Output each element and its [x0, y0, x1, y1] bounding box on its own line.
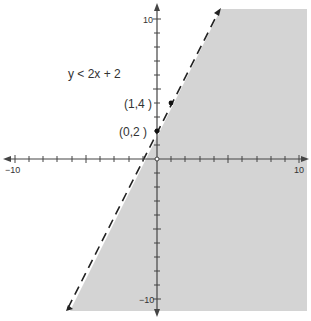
x-max-label: 10	[294, 165, 304, 175]
origin-marker	[155, 157, 159, 161]
y-axis-arrow-down-icon	[154, 309, 160, 317]
y-min-label: −10	[139, 295, 154, 305]
y-max-label: 10	[143, 15, 153, 25]
y-axis-arrow-up-icon	[154, 3, 160, 11]
equation-label: y < 2x + 2	[68, 67, 121, 81]
x-min-label: −10	[5, 165, 20, 175]
inequality-graph: y < 2x + 2 (1,4 ) (0,2 ) −10 10 10 −10	[0, 0, 311, 321]
point-label-0-2: (0,2 )	[119, 125, 147, 139]
x-axis-arrow-left-icon	[3, 156, 11, 162]
point-0-2	[155, 129, 160, 134]
point-label-1-4: (1,4 )	[124, 97, 152, 111]
point-1-4	[169, 101, 174, 106]
